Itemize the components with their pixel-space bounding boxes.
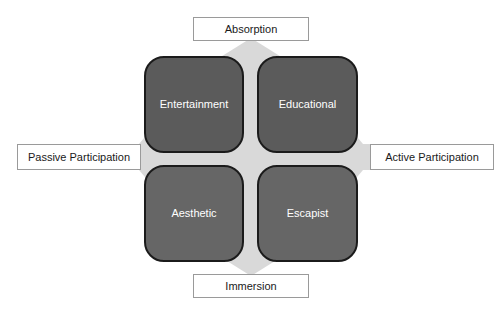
quadrant-aesthetic-label: Aesthetic	[171, 208, 216, 219]
axis-label-active-participation-text: Active Participation	[385, 152, 479, 163]
axis-label-passive-participation: Passive Participation	[17, 144, 141, 170]
axis-label-absorption-text: Absorption	[225, 24, 278, 35]
experience-realms-diagram: Entertainment Educational Aesthetic Esca…	[0, 0, 502, 313]
quadrant-escapist-label: Escapist	[287, 208, 329, 219]
quadrant-aesthetic[interactable]: Aesthetic	[144, 165, 244, 262]
quadrant-escapist[interactable]: Escapist	[257, 165, 358, 262]
quadrant-educational[interactable]: Educational	[257, 56, 358, 153]
axis-label-immersion-text: Immersion	[225, 281, 276, 292]
quadrant-entertainment-label: Entertainment	[160, 99, 228, 110]
quadrant-entertainment[interactable]: Entertainment	[144, 56, 244, 153]
axis-label-active-participation: Active Participation	[370, 144, 494, 170]
quadrant-educational-label: Educational	[279, 99, 337, 110]
axis-label-immersion: Immersion	[193, 274, 309, 298]
axis-label-absorption: Absorption	[193, 17, 309, 41]
axis-label-passive-participation-text: Passive Participation	[28, 152, 130, 163]
